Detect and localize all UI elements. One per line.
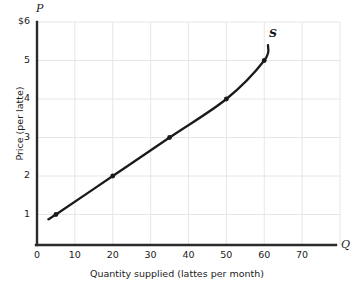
x-tick-label: 30 bbox=[139, 249, 163, 260]
chart-figure: P Q Price (per latte) Quantity supplied … bbox=[0, 0, 354, 288]
data-point bbox=[224, 97, 229, 102]
y-tick-label: 4 bbox=[8, 92, 30, 103]
x-tick-label: 50 bbox=[214, 249, 238, 260]
x-axis-symbol: Q bbox=[341, 238, 350, 251]
x-tick-label: 10 bbox=[63, 249, 87, 260]
y-axis-title: Price (per latte) bbox=[14, 69, 25, 179]
y-tick-label: $6 bbox=[8, 15, 30, 26]
supply-curve-label: S bbox=[269, 27, 277, 40]
gridlines bbox=[37, 22, 340, 245]
x-tick-label: 20 bbox=[101, 249, 125, 260]
y-tick-label: 5 bbox=[8, 54, 30, 65]
x-tick-label: 0 bbox=[25, 249, 49, 260]
supply-curve-plot bbox=[0, 0, 354, 288]
x-tick-label: 40 bbox=[177, 249, 201, 260]
y-axis-symbol: P bbox=[36, 2, 43, 15]
data-point bbox=[54, 212, 59, 217]
x-tick-label: 70 bbox=[290, 249, 314, 260]
axis-lines bbox=[36, 22, 336, 245]
x-axis-title: Quantity supplied (lattes per month) bbox=[0, 268, 354, 279]
y-tick-label: 2 bbox=[8, 169, 30, 180]
x-tick-label: 60 bbox=[252, 249, 276, 260]
y-tick-label: 1 bbox=[8, 208, 30, 219]
data-point bbox=[110, 174, 115, 179]
data-point bbox=[167, 135, 172, 140]
supply-curve-line bbox=[48, 45, 268, 219]
y-tick-label: 3 bbox=[8, 131, 30, 142]
data-point bbox=[262, 58, 267, 63]
